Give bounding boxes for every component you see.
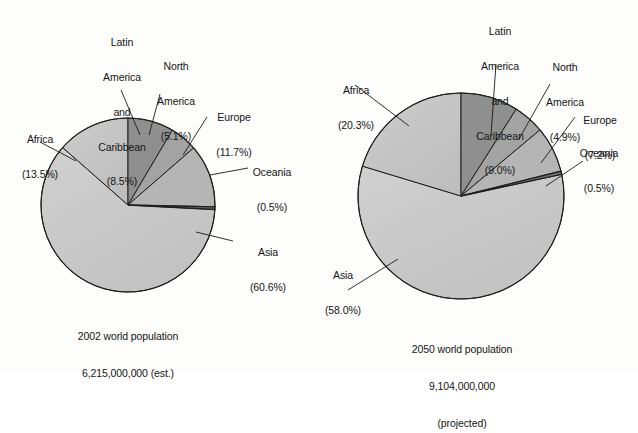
- label-asia-2050[interactable]: Asia (58.0%): [310, 247, 376, 340]
- label-line: Asia: [234, 247, 302, 259]
- label-line: North: [139, 61, 213, 73]
- label-line: Oceania: [562, 148, 636, 160]
- label-line: (58.0%): [310, 305, 376, 317]
- caption-line: (projected): [372, 417, 552, 429]
- label-line: (9.0%): [447, 165, 553, 177]
- label-line: (20.3%): [320, 120, 392, 132]
- label-oceania-2050[interactable]: Oceania (0.5%): [562, 125, 636, 218]
- caption-line: 6,215,000,000 (est.): [38, 367, 218, 379]
- label-oceania-2002[interactable]: Oceania (0.5%): [232, 144, 312, 237]
- label-line: (0.5%): [232, 202, 312, 214]
- label-line: (13.5%): [6, 169, 74, 181]
- label-line: Europe: [196, 112, 272, 124]
- label-line: Africa: [320, 85, 392, 97]
- label-line: Oceania: [232, 167, 312, 179]
- caption-line: 9,104,000,000: [372, 380, 552, 392]
- label-line: (8.5%): [62, 176, 182, 188]
- label-line: Latin: [447, 26, 553, 38]
- label-asia-2002[interactable]: Asia (60.6%): [234, 224, 302, 317]
- label-line: (60.6%): [234, 282, 302, 294]
- label-line: (0.5%): [562, 183, 636, 195]
- caption-line: 2050 world population: [372, 343, 552, 355]
- label-line: North: [527, 62, 603, 74]
- caption-2050: 2050 world population 9,104,000,000 (pro…: [372, 318, 552, 433]
- label-africa-2002[interactable]: Africa (13.5%): [6, 111, 74, 204]
- caption-2002: 2002 world population 6,215,000,000 (est…: [38, 305, 218, 404]
- label-line: Asia: [310, 270, 376, 282]
- caption-line: 2002 world population: [38, 330, 218, 342]
- label-africa-2050[interactable]: Africa (20.3%): [320, 62, 392, 155]
- label-line: Africa: [6, 134, 74, 146]
